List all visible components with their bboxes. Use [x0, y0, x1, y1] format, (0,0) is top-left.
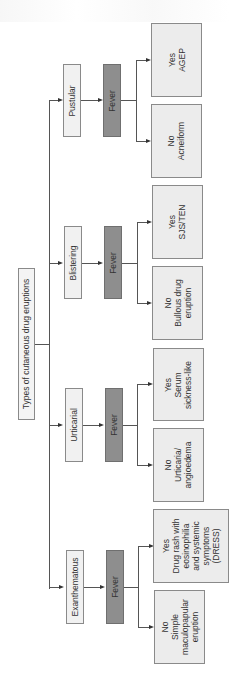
- connector: [136, 141, 146, 142]
- category-pustular: Pustular: [63, 64, 81, 137]
- category-exanthematous: Exanthematous: [66, 550, 84, 624]
- root-node: Types of cutaneous drug eruptions: [18, 268, 35, 420]
- category-urticarial: Urticarial: [65, 388, 83, 462]
- outcome-text: No Bullous drug eruption: [162, 279, 192, 326]
- outcome-text: Yes Serum sickness-like: [164, 360, 194, 408]
- outcome-text: No Simple maculopapular eruption: [160, 599, 200, 655]
- outcome-simple-maculopapular-eruption: No Simple maculopapular eruption: [154, 590, 205, 664]
- decision-fever-urticarial: Fever: [105, 388, 123, 462]
- connector: [138, 546, 149, 547]
- connector: [122, 263, 137, 264]
- connector: [138, 627, 149, 628]
- decision-label: Fever: [109, 414, 119, 436]
- outcome-acneiform: No Acneiform: [151, 104, 202, 178]
- root-connector: [35, 344, 49, 345]
- connector: [83, 425, 99, 426]
- outcome-serum-sickness-like: Yes Serum sickness-like: [153, 348, 204, 421]
- connector: [121, 100, 136, 101]
- arrow-icon: [58, 423, 63, 427]
- decision-fever-pustular: Fever: [103, 64, 121, 137]
- connector: [49, 263, 58, 264]
- branch-line: [137, 384, 138, 466]
- outcome-dress: Yes Drug rash with eosinophilia and syst…: [153, 509, 229, 583]
- connector: [49, 100, 58, 101]
- category-label: Pustular: [67, 85, 77, 116]
- arrow-icon: [100, 585, 105, 589]
- connector: [136, 60, 146, 61]
- category-blistering: Blistering: [64, 226, 82, 299]
- outcome-text: No Urticaria/ angioedema: [163, 442, 193, 489]
- outcome-urticaria-angioedema: No Urticaria/ angioedema: [153, 428, 204, 502]
- outcome-text: Yes Drug rash with eosinophilia and syst…: [161, 519, 221, 574]
- category-label: Urticarial: [69, 408, 79, 442]
- decision-label: Fever: [108, 252, 118, 274]
- connector: [81, 100, 98, 101]
- decision-fever-blistering: Fever: [104, 226, 122, 299]
- connector: [84, 587, 100, 588]
- category-label: Blistering: [68, 245, 78, 280]
- connector: [123, 425, 137, 426]
- outcome-sjs-ten: Yes SJS/TEN: [152, 185, 203, 259]
- outcome-text: Yes SJS/TEN: [167, 205, 187, 240]
- trunk-line: [49, 100, 50, 589]
- arrow-icon: [59, 585, 64, 589]
- branch-line: [136, 60, 137, 142]
- connector: [82, 263, 98, 264]
- decision-label: Fever: [110, 576, 120, 598]
- outcome-bullous-drug-eruption: No Bullous drug eruption: [152, 266, 203, 340]
- branch-line: [138, 546, 139, 628]
- category-label: Exanthematous: [70, 557, 80, 616]
- outcome-text: Yes AGEP: [167, 48, 187, 72]
- decision-label: Fever: [107, 90, 117, 112]
- top-bleed-artifact: [0, 0, 229, 22]
- connector: [137, 222, 147, 223]
- arrow-icon: [58, 261, 63, 265]
- connector: [49, 425, 58, 426]
- connector: [137, 303, 147, 304]
- root-label: Types of cutaneous drug eruptions: [22, 279, 32, 409]
- branch-line: [137, 222, 138, 304]
- decision-fever-exanthematous: Fever: [106, 550, 124, 624]
- connector: [137, 465, 148, 466]
- connector: [137, 384, 148, 385]
- connector: [49, 587, 59, 588]
- outcome-agep: Yes AGEP: [151, 23, 202, 97]
- arrow-icon: [98, 261, 103, 265]
- outcome-text: No Acneiform: [166, 122, 186, 160]
- connector: [124, 587, 138, 588]
- arrow-icon: [99, 423, 104, 427]
